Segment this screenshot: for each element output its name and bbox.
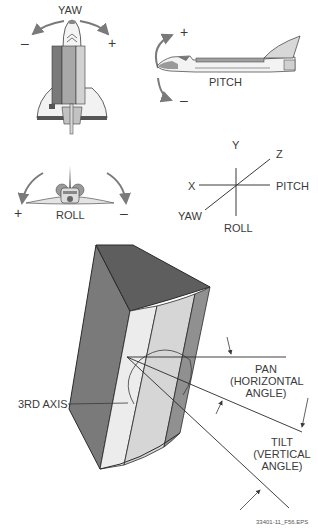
axis-z-label: Z [276, 148, 283, 160]
axis-yaw-label: YAW [178, 210, 202, 222]
pitch-shuttle-illustration [156, 35, 300, 100]
yaw-plus-sign: + [108, 36, 116, 50]
yaw-minus-arrow [33, 21, 64, 34]
axis-y-label: Y [232, 139, 239, 151]
yaw-title: YAW [58, 4, 82, 16]
tilt-label: TILT (VERTICAL ANGLE) [250, 436, 314, 472]
roll-title: ROLL [56, 209, 85, 221]
tilt-title: TILT [250, 436, 314, 448]
pan-subtitle-line1: (HORIZONTAL [230, 375, 302, 387]
axis-roll-label: ROLL [224, 222, 253, 234]
pitch-title: PITCH [209, 76, 242, 88]
yaw-shuttle-illustration [33, 20, 108, 134]
roll-shuttle-illustration [22, 166, 126, 204]
roll-plus-sign: + [14, 206, 22, 220]
tilt-subtitle-line1: (VERTICAL [250, 448, 314, 460]
figure-id: 33401-11_F56.EPS [256, 516, 308, 528]
axis-pitch-label: PITCH [276, 180, 309, 192]
tilt-subtitle-line2: ANGLE) [250, 460, 314, 472]
roll-minus-sign: – [120, 206, 128, 220]
pitch-minus-arrow [158, 78, 171, 100]
axis-diagram [199, 159, 270, 216]
pan-title: PAN [230, 363, 302, 375]
yaw-plus-arrow [80, 21, 108, 34]
axis-x-label: X [188, 180, 195, 192]
roll-plus-arrow [22, 173, 43, 203]
pitch-minus-sign: – [180, 93, 188, 107]
roll-minus-arrow [107, 173, 126, 203]
third-axis-label: 3RD AXIS [18, 398, 68, 410]
pitch-plus-sign: + [180, 25, 188, 39]
pan-label: PAN (HORIZONTAL ANGLE) [230, 363, 302, 399]
pan-subtitle-line2: ANGLE) [230, 387, 302, 399]
yaw-minus-sign: – [21, 36, 29, 50]
